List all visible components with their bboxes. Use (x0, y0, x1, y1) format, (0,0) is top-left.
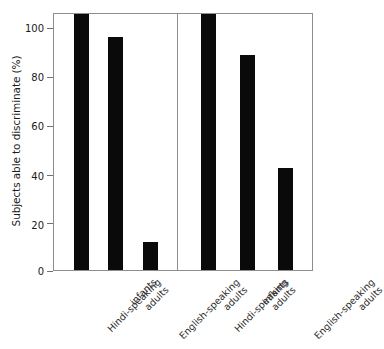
bar-left-english-speaking-adults (143, 242, 158, 270)
bar-right-infants (240, 55, 255, 270)
bar-right-hindi-speaking-adults (201, 14, 216, 270)
bar-left-infants (108, 37, 123, 270)
y-tick-label-40: 40 (18, 171, 44, 182)
bar-left-hindi-speaking-adults (74, 14, 89, 270)
bar-right-english-speaking-adults (278, 168, 293, 270)
panel-divider (177, 14, 178, 270)
y-tick-mark-0 (47, 271, 53, 272)
x-label-left-english-speaking-adults: English-speaking adults (178, 277, 250, 349)
y-tick-label-100: 100 (18, 23, 44, 34)
y-tick-label-0: 0 (18, 266, 44, 277)
y-tick-label-80: 80 (18, 72, 44, 83)
plot-area (53, 13, 313, 271)
x-label-left-hindi-speaking-adults: Hindi-speaking adults (106, 277, 171, 342)
y-axis-title: Subjects able to discriminate (%) (10, 41, 22, 241)
y-tick-label-60: 60 (18, 121, 44, 132)
x-label-right-english-speaking-adults: English-speaking adults (313, 277, 384, 349)
y-tick-label-20: 20 (18, 220, 44, 231)
